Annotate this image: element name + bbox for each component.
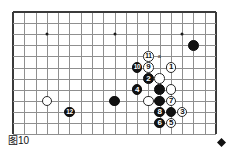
- board-star-point: [45, 33, 48, 36]
- white-stone: [166, 84, 177, 95]
- board-gridline-vertical: [24, 12, 25, 134]
- board-gridline-horizontal: [13, 23, 216, 24]
- black-stone: 12: [64, 107, 75, 118]
- white-stone: [42, 96, 53, 107]
- board-gridline-vertical: [58, 12, 59, 134]
- black-stone: 6: [154, 118, 165, 129]
- board-gridline-vertical: [12, 12, 14, 134]
- white-stone: 9: [143, 62, 154, 73]
- black-diamond-icon: [217, 138, 226, 147]
- stone-move-number: 10: [134, 64, 140, 71]
- stone-move-number: 6: [158, 118, 162, 126]
- white-stone: 11: [143, 51, 154, 62]
- board-gridline-vertical: [137, 12, 138, 134]
- board-gridline-horizontal: [13, 134, 216, 135]
- black-stone: 2: [143, 73, 154, 84]
- black-stone: 8: [154, 107, 165, 118]
- board-gridline-vertical: [103, 12, 104, 134]
- board-gridline-horizontal: [13, 123, 216, 124]
- board-star-point: [113, 33, 116, 36]
- board-star-point: [181, 33, 184, 36]
- stone-move-number: 4: [135, 85, 139, 93]
- board-gridline-vertical: [215, 12, 217, 134]
- board-gridline-horizontal: [13, 45, 216, 46]
- board-gridline-vertical: [193, 12, 194, 134]
- white-stone: 5: [166, 118, 177, 129]
- white-stone: 7: [166, 96, 177, 107]
- black-stone: [154, 96, 165, 107]
- point-a-marker: a: [158, 53, 161, 60]
- stone-move-number: 1: [169, 63, 173, 71]
- board-gridline-vertical: [47, 12, 48, 134]
- board-gridline-horizontal: [13, 68, 216, 69]
- stone-move-number: 5: [169, 118, 173, 126]
- go-diagram-figure: a111109247836512 图10: [0, 0, 234, 155]
- board-gridline-vertical: [115, 12, 116, 134]
- white-stone: [154, 73, 165, 84]
- board-gridline-horizontal: [13, 11, 216, 13]
- go-board: a111109247836512: [0, 0, 234, 140]
- black-stone: 10: [132, 62, 143, 73]
- board-gridline-vertical: [205, 12, 206, 134]
- black-stone: [154, 84, 165, 95]
- board-gridline-horizontal: [13, 90, 216, 91]
- board-gridline-horizontal: [13, 56, 216, 57]
- board-gridline-vertical: [36, 12, 37, 134]
- white-stone: 1: [166, 62, 177, 73]
- stone-move-number: 9: [146, 63, 150, 71]
- stone-move-number: 7: [169, 96, 173, 104]
- stone-move-number: 11: [145, 53, 151, 60]
- black-stone: [109, 96, 120, 107]
- board-gridline-vertical: [92, 12, 93, 134]
- stone-move-number: 2: [146, 74, 150, 82]
- figure-caption: 图10: [8, 136, 29, 146]
- stone-move-number: 3: [180, 107, 184, 115]
- white-stone: 3: [177, 107, 188, 118]
- stone-move-number: 12: [66, 108, 72, 115]
- black-stone: 4: [132, 84, 143, 95]
- stone-move-number: 8: [158, 107, 162, 115]
- board-gridline-vertical: [126, 12, 127, 134]
- black-stone: [188, 40, 199, 51]
- black-stone: [166, 107, 177, 118]
- board-gridline-vertical: [81, 12, 82, 134]
- white-stone: [143, 96, 154, 107]
- board-gridline-horizontal: [13, 79, 216, 80]
